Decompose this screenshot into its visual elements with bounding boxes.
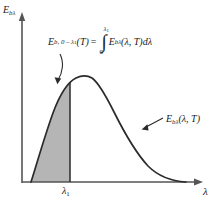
blackbody-emissive-power-figure: Ebλ λ λ1 Ebλ(λ, T) Eb, 0 – λ1(T)=λ1∫0Ebλ… xyxy=(0,0,215,207)
curve-label-leader-line xyxy=(146,118,163,127)
x-axis-label: λ xyxy=(203,186,208,197)
shaded-band-region xyxy=(31,82,70,182)
y-axis-label: Ebλ xyxy=(3,5,15,17)
integral-operator: λ1∫0 xyxy=(99,34,108,50)
curve-label-argument: (λ, T) xyxy=(178,113,200,124)
integral-lower-limit: 0 xyxy=(99,49,103,56)
equation-lhs-subscript: b, 0 – λ xyxy=(54,39,74,46)
y-axis-label-subscript: bλ xyxy=(9,9,15,16)
band-emission-equation: Eb, 0 – λ1(T)=λ1∫0Ebλ(λ, T)dλ xyxy=(48,34,152,50)
integral-upper-limit-subscript: 1 xyxy=(106,28,108,33)
curve-label-arrowhead xyxy=(142,124,149,130)
curve-label: Ebλ(λ, T) xyxy=(166,114,200,126)
integrand-differential: dλ xyxy=(143,37,152,47)
band-annotation-arrowhead xyxy=(55,77,62,84)
tick-label-subscript: 1 xyxy=(66,190,69,197)
x-axis-arrowhead xyxy=(194,179,203,186)
x-axis-tick-label-lambda1: λ1 xyxy=(62,186,70,198)
integral-upper-limit: λ1 xyxy=(103,26,109,34)
equation-equals-sign: = xyxy=(89,37,99,47)
band-annotation-leader-line xyxy=(58,54,62,80)
equation-lhs-argument: (T) xyxy=(77,37,89,47)
y-axis-arrowhead xyxy=(19,12,25,21)
integrand-argument: (λ, T) xyxy=(121,37,143,47)
